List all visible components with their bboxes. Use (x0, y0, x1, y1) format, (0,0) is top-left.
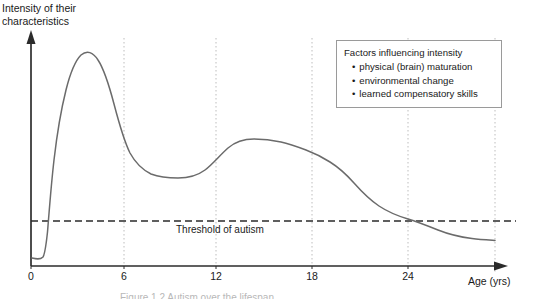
figure-caption-partial: Figure 1.2 Autism over the lifespan (120, 292, 450, 299)
x-axis-arrowhead (494, 262, 508, 271)
x-tick-label-18: 18 (299, 270, 325, 282)
figure-container: Intensity of their characteristics 0 6 1… (0, 0, 543, 299)
x-tick-label-6: 6 (111, 270, 137, 282)
x-tick-label-12: 12 (203, 270, 229, 282)
x-axis-title: Age (yrs) (468, 275, 511, 287)
factors-legend-box: Factors influencing intensity physical (… (336, 40, 502, 108)
legend-item-list: physical (brain) maturation environmenta… (344, 60, 494, 101)
legend-item-environmental-change: environmental change (352, 74, 494, 88)
legend-item-physical-maturation: physical (brain) maturation (352, 60, 494, 74)
legend-title: Factors influencing intensity (344, 46, 494, 59)
y-axis-arrowhead (27, 30, 36, 44)
legend-item-compensatory-skills: learned compensatory skills (352, 87, 494, 101)
x-tick-label-0: 0 (18, 270, 44, 282)
threshold-of-autism-label: Threshold of autism (176, 224, 264, 235)
x-tick-label-24: 24 (395, 270, 421, 282)
